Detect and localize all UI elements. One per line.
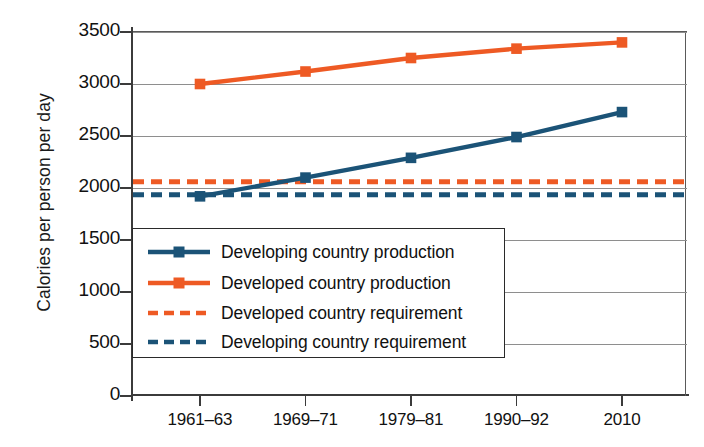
legend-dashed-line-icon — [147, 332, 211, 352]
x-tick-label: 1990–92 — [457, 410, 577, 430]
x-tick-label: 1961–63 — [140, 410, 260, 430]
legend-label: Developed country production — [221, 273, 451, 294]
calories-per-person-line-chart: Calories per person per day 050010001500… — [0, 0, 704, 447]
x-tick-label: 2010 — [562, 410, 682, 430]
legend-item[interactable]: Developing country requirement — [133, 328, 504, 356]
x-axis-tick-labels: 1961–631969–711979–811990–922010 — [0, 0, 704, 447]
legend-label: Developed country requirement — [221, 303, 462, 324]
chart-legend: Developing country productionDeveloped c… — [132, 228, 505, 358]
legend-item[interactable]: Developing country production — [133, 238, 504, 266]
legend-line-marker-icon — [147, 242, 211, 262]
legend-item[interactable]: Developed country requirement — [133, 299, 504, 327]
x-tick-label: 1979–81 — [351, 410, 471, 430]
legend-dashed-line-icon — [147, 303, 211, 323]
legend-line-marker-icon — [147, 273, 211, 293]
legend-label: Developing country requirement — [221, 332, 466, 353]
legend-item[interactable]: Developed country production — [133, 269, 504, 297]
x-tick-label: 1969–71 — [246, 410, 366, 430]
legend-label: Developing country production — [221, 242, 455, 263]
